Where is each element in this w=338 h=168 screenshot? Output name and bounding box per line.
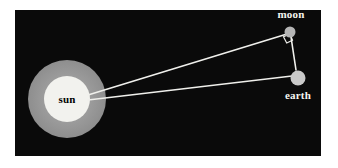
earth-label: earth [285, 89, 311, 101]
earth-body [291, 71, 306, 86]
diagram-canvas: moon earth sun [0, 0, 338, 168]
sun-label: sun [58, 93, 75, 105]
moon-body [285, 27, 296, 38]
figure-root: moon earth sun [0, 0, 338, 168]
